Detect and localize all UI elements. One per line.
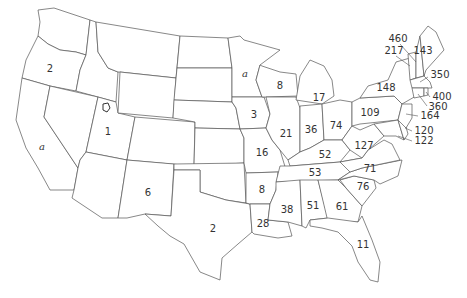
state-label-mississippi: 38 [281, 205, 294, 215]
state-label-virginia: 71 [364, 164, 377, 174]
state-label-minnesota: a [242, 69, 248, 79]
state-arizona [72, 152, 127, 218]
state-south-dakota [174, 68, 232, 102]
state-label-texas: 2 [210, 224, 216, 234]
state-label-west-virginia: 127 [354, 141, 373, 151]
state-label-louisiana: 28 [257, 219, 270, 229]
state-label-new-hampshire: 460 [388, 34, 407, 44]
state-label-michigan: 17 [313, 93, 326, 103]
state-label-kentucky: 52 [319, 150, 332, 160]
state-label-tennessee: 53 [309, 168, 322, 178]
state-label-pennsylvania: 109 [360, 108, 379, 118]
state-kansas [194, 128, 244, 166]
state-label-arkansas: 8 [259, 185, 265, 195]
state-label-maine: 143 [413, 46, 432, 56]
state-label-georgia: 61 [336, 202, 349, 212]
state-label-new-york: 148 [376, 83, 395, 93]
state-label-north-carolina: 76 [357, 182, 370, 192]
state-connecticut [412, 88, 424, 98]
state-label-vermont: 217 [384, 46, 403, 56]
state-label-alabama: 51 [307, 201, 320, 211]
state-label-missouri: 16 [256, 148, 269, 158]
state-label-iowa: 3 [251, 110, 257, 120]
state-label-maryland: 122 [414, 136, 433, 146]
state-north-dakota [177, 36, 232, 68]
state-label-illinois: 21 [280, 129, 293, 139]
state-label-ohio: 74 [330, 121, 343, 131]
state-label-oregon: 2 [47, 64, 53, 74]
state-label-indiana: 36 [305, 125, 318, 135]
state-wyoming [118, 72, 176, 118]
state-florida [310, 216, 380, 282]
state-label-wisconsin: 8 [277, 81, 283, 91]
state-label-new-mexico: 6 [145, 188, 151, 198]
state-label-new-jersey: 164 [420, 111, 439, 121]
state-label-florida: 11 [357, 240, 370, 250]
state-colorado [127, 117, 195, 166]
state-label-massachusetts: 350 [430, 70, 449, 80]
state-label-utah: 1 [105, 127, 111, 137]
state-label-california: a [39, 142, 45, 152]
